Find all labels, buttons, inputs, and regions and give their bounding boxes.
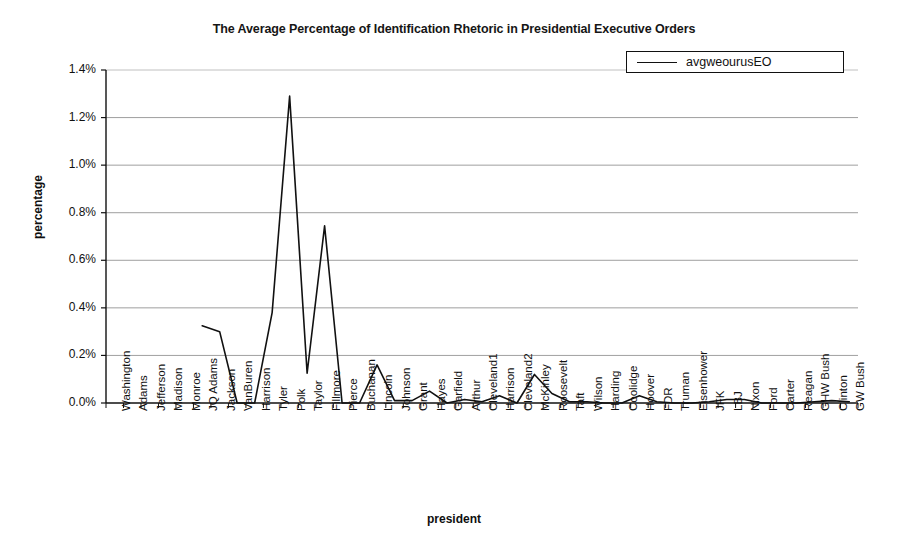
x-axis-tick-label: VanBuren: [242, 361, 254, 411]
x-axis-tick-label: LBJ: [732, 391, 744, 411]
y-axis-tick-label: 0.8%: [44, 205, 96, 219]
y-axis-ticks: [101, 70, 106, 403]
y-axis-tick-label: 1.2%: [44, 110, 96, 124]
x-axis-tick-label: Grant: [417, 382, 429, 411]
x-axis-tick-label: Madison: [172, 368, 184, 411]
x-axis-tick-label: Harding: [609, 371, 621, 411]
y-axis-tick-label: 1.0%: [44, 157, 96, 171]
x-axis-tick-label: Garfield: [452, 371, 464, 411]
x-axis-tick-label: Carter: [784, 379, 796, 411]
x-axis-tick-label: GW Bush: [854, 362, 866, 411]
x-axis-tick-label: Adams: [137, 375, 149, 411]
x-axis-tick-label: Monroe: [190, 372, 202, 411]
x-axis-tick-label: McKinley: [539, 364, 551, 411]
x-axis-tick-label: Cleveland2: [522, 353, 534, 411]
x-axis-tick-label: Coolidge: [627, 366, 639, 411]
x-axis-tick-label: Eisenhower: [697, 351, 709, 411]
x-axis-tick-label: Buchanan: [365, 359, 377, 411]
x-axis-tick-label: Nixon: [749, 382, 761, 411]
y-axis-tick-label: 1.4%: [44, 62, 96, 76]
x-axis-tick-label: Fillmore: [330, 370, 342, 411]
chart-legend: avgweourusEO: [626, 51, 844, 73]
x-axis-tick-label: Wilson: [592, 376, 604, 411]
x-axis-tick-label: GHW Bush: [819, 353, 831, 411]
x-axis-tick-label: Washington: [120, 351, 132, 411]
x-axis-tick-label: Reagan: [802, 371, 814, 411]
x-axis-tick-label: Ford: [767, 387, 779, 411]
x-axis-tick-label: Lincoln: [382, 375, 394, 411]
x-axis-tick-label: Pierce: [347, 378, 359, 411]
x-axis-tick-label: Taft: [574, 392, 586, 411]
x-axis-tick-label: Jackson: [225, 369, 237, 411]
x-axis-tick-label: Roosevelt: [557, 360, 569, 411]
x-axis-tick-label: Harrison: [260, 368, 272, 411]
x-axis-tick-label: Arthur: [470, 380, 482, 411]
x-axis-tick-label: FDR: [662, 387, 674, 411]
gridlines: [106, 70, 858, 355]
x-axis-tick-label: Cleveland1: [487, 353, 499, 411]
legend-label-avgweourusEO: avgweourusEO: [686, 55, 771, 69]
x-axis-tick-label: Truman: [679, 372, 691, 411]
y-axis-tick-label: 0.6%: [44, 252, 96, 266]
x-axis-tick-label: Clinton: [837, 375, 849, 411]
x-axis-tick-label: Jefferson: [155, 364, 167, 411]
y-axis-tick-label: 0.4%: [44, 300, 96, 314]
y-axis-tick-label: 0.2%: [44, 347, 96, 361]
chart-container: The Average Percentage of Identification…: [0, 0, 908, 548]
x-axis-tick-label: JFK: [714, 391, 726, 411]
y-axis-tick-label: 0.0%: [44, 395, 96, 409]
legend-line-swatch: [637, 62, 677, 63]
x-axis-tick-label: Taylor: [312, 380, 324, 411]
x-axis-tick-label: Hoover: [644, 374, 656, 411]
x-axis-tick-label: Harrison: [504, 368, 516, 411]
x-axis-tick-label: Hayes: [435, 378, 447, 411]
x-axis-tick-label: JQ Adams: [207, 358, 219, 411]
x-axis-tick-label: Polk: [295, 389, 307, 411]
x-axis-tick-label: Tyler: [277, 386, 289, 411]
x-axis-tick-label: Johnson: [400, 368, 412, 411]
plot-area: [0, 0, 908, 548]
